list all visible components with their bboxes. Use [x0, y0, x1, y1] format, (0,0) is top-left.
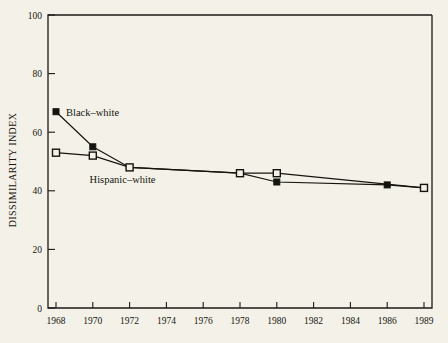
- data-point-marker: [89, 152, 96, 159]
- x-tick-label: 1976: [194, 316, 213, 326]
- x-tick-label: 1984: [341, 316, 360, 326]
- dissimilarity-index-line-chart: 020406080100 196819701972197419761978198…: [0, 0, 448, 343]
- data-point-marker: [90, 144, 96, 150]
- x-tick-label: 1970: [83, 316, 102, 326]
- data-point-marker: [421, 184, 428, 191]
- y-tick-label: 100: [28, 11, 43, 21]
- x-tick-label: 1974: [157, 316, 176, 326]
- x-tick-label: 1978: [231, 316, 250, 326]
- x-tick-label: 1980: [267, 316, 286, 326]
- black-white-series-label: Black–white: [66, 107, 119, 118]
- chart-container: 020406080100 196819701972197419761978198…: [0, 0, 448, 343]
- x-tick-label: 1968: [47, 316, 66, 326]
- y-tick-label: 80: [33, 69, 43, 79]
- hispanic-white-series-label: Hispanic–white: [90, 174, 156, 185]
- x-tick-label: 1989: [415, 316, 434, 326]
- data-point-marker: [273, 170, 280, 177]
- x-tick-label: 1972: [120, 316, 139, 326]
- x-tick-label: 1986: [378, 316, 397, 326]
- data-point-marker: [274, 179, 280, 185]
- data-point-marker: [53, 109, 59, 115]
- y-tick-label: 60: [33, 128, 43, 138]
- y-tick-label: 20: [33, 245, 43, 255]
- y-tick-label: 0: [37, 304, 42, 314]
- data-point-marker: [237, 170, 244, 177]
- y-axis-title: DISSIMILARITY INDEX: [7, 112, 18, 227]
- chart-background: [0, 0, 448, 343]
- x-tick-label: 1982: [304, 316, 323, 326]
- data-point-marker: [126, 164, 133, 171]
- y-tick-label: 40: [33, 186, 43, 196]
- data-point-marker: [53, 149, 60, 156]
